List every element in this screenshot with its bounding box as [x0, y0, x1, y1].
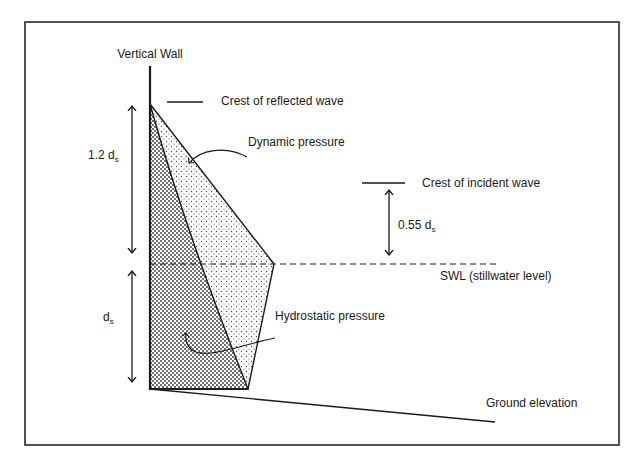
dynamic-pressure-label: Dynamic pressure	[248, 135, 345, 149]
crest-reflected-label: Crest of reflected wave	[221, 94, 344, 108]
figure-frame	[25, 22, 619, 445]
hydrostatic-pressure-label: Hydrostatic pressure	[275, 309, 385, 323]
ground-elevation-label: Ground elevation	[486, 396, 577, 410]
lower-dimension-label: ds	[103, 310, 114, 326]
ground-line	[150, 389, 495, 422]
upper-dimension-label: 1.2 ds	[88, 148, 119, 164]
dynamic-pressure-pointer	[189, 150, 247, 163]
swl-label: SWL (stillwater level)	[440, 269, 552, 283]
wave-pressure-diagram: Vertical Wall Crest of reflected wave Dy…	[0, 0, 642, 468]
crest-incident-label: Crest of incident wave	[422, 176, 540, 190]
vertical-wall-label: Vertical Wall	[117, 47, 183, 61]
incident-dimension-label: 0.55 ds	[398, 218, 435, 234]
